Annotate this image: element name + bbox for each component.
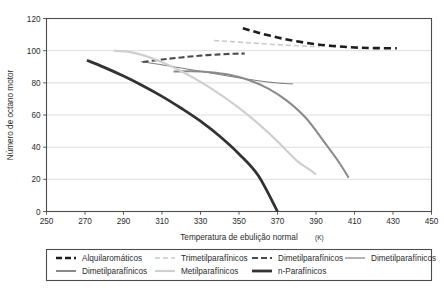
x-tick-label-290: 290 — [117, 217, 131, 226]
series-line-5 — [114, 51, 316, 175]
x-tick-label-330: 330 — [194, 217, 208, 226]
x-tick-label-410: 410 — [348, 217, 362, 226]
y-axis-title-text: Número de octano motor — [6, 69, 15, 160]
legend-item-label: Alquilaromáticos — [82, 254, 142, 263]
y-axis-ticks: 020406080100120 — [27, 15, 47, 217]
y-tick-label-120: 120 — [27, 15, 41, 24]
series-line-1 — [214, 41, 320, 47]
x-tick-label-350: 350 — [232, 217, 246, 226]
x-axis-title: Temperatura de ebulição normal(K) — [180, 233, 324, 242]
y-tick-label-80: 80 — [31, 79, 41, 88]
series-line-0 — [243, 28, 397, 48]
legend-item-label: Dimetilparafínicos — [278, 254, 343, 263]
y-tick-label-60: 60 — [31, 111, 41, 120]
x-axis-ticks: 250270290310330350370390410430450 — [40, 212, 439, 227]
series-line-4 — [174, 71, 349, 177]
y-tick-label-0: 0 — [36, 208, 41, 217]
legend-item[interactable]: Trimetilparafínicos — [155, 254, 248, 263]
y-tick-label-20: 20 — [31, 175, 41, 184]
legend-item[interactable]: Dimetilparafínicos — [345, 254, 436, 263]
legend-item[interactable]: Dimetilparafínicos — [252, 254, 343, 263]
legend-item-label: Trimetilparafínicos — [181, 254, 248, 263]
x-tick-label-390: 390 — [309, 217, 323, 226]
legend-item-label: Dimetilparafínicos — [371, 254, 436, 263]
legend-item-label: n-Parafínicos — [278, 267, 326, 276]
legend-item-label: Dimetilparafínicos — [82, 267, 147, 276]
octane-vs-boiling-point-chart: 250270290310330350370390410430450 020406… — [0, 0, 444, 290]
legend-item-label: Metilparafínicos — [181, 267, 238, 276]
grid-lines — [47, 51, 432, 180]
y-tick-label-100: 100 — [27, 47, 41, 56]
legend: AlquilaromáticosTrimetilparafínicosDimet… — [47, 250, 437, 281]
chart-figure: 250270290310330350370390410430450 020406… — [0, 0, 444, 290]
x-tick-label-250: 250 — [40, 217, 54, 226]
legend-item[interactable]: n-Parafínicos — [252, 267, 326, 276]
x-tick-label-270: 270 — [78, 217, 92, 226]
y-axis-title: Número de octano motor — [6, 69, 15, 160]
x-tick-label-310: 310 — [155, 217, 169, 226]
x-tick-label-430: 430 — [386, 217, 400, 226]
x-tick-label-450: 450 — [425, 217, 439, 226]
x-axis-title-unit: (K) — [315, 234, 324, 242]
data-series-group — [87, 28, 397, 211]
legend-item[interactable]: Dimetilparafínicos — [56, 267, 147, 276]
legend-item[interactable]: Metilparafínicos — [155, 267, 238, 276]
y-tick-label-40: 40 — [31, 143, 41, 152]
x-tick-label-370: 370 — [271, 217, 285, 226]
x-axis-title-text: Temperatura de ebulição normal — [180, 233, 298, 242]
legend-item[interactable]: Alquilaromáticos — [56, 254, 142, 263]
